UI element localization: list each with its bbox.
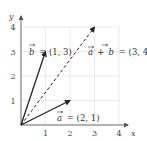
y-tick-3: 3 xyxy=(10,48,15,57)
y-axis-label: y xyxy=(8,12,14,21)
vector-a-value: = (2, 1) xyxy=(67,113,100,123)
y-tick-1: 1 xyxy=(10,97,15,106)
y-tick-2: 2 xyxy=(10,72,15,81)
vector-a-plus-b-value: = (3, 4) xyxy=(119,47,147,57)
x-tick-3: 3 xyxy=(92,129,97,138)
x-tick-4: 4 xyxy=(116,129,121,138)
vector-b-label: b = (1, 3) xyxy=(29,44,72,57)
vector-a-plus-b-op: + xyxy=(97,47,104,57)
vector-diagram: x y 1 2 3 4 1 2 3 4 b = (1, 3) a + b = (… xyxy=(0,0,147,141)
vector-a-label: a = (2, 1) xyxy=(57,111,99,123)
svg-text:b = (1, 3): b = (1, 3) xyxy=(29,47,72,57)
vector-a-var: a xyxy=(57,113,62,123)
svg-text:a + b = (3,: a + b = (3, 4) xyxy=(88,47,147,57)
vector-b-var: b xyxy=(29,47,34,57)
svg-text:a = (2, 1): a = (2, 1) xyxy=(57,113,99,123)
vector-a-plus-b-label: a + b = (3, 4) xyxy=(88,44,147,57)
x-axis-label: x xyxy=(131,129,136,138)
y-tick-4: 4 xyxy=(10,23,15,32)
vector-a-plus-b-var2: b xyxy=(109,47,114,57)
vector-a-plus-b-var1: a xyxy=(88,47,93,57)
vector-b-value: = (1, 3) xyxy=(39,47,72,57)
x-tick-2: 2 xyxy=(67,129,72,138)
x-tick-1: 1 xyxy=(43,129,48,138)
grid xyxy=(21,27,119,125)
